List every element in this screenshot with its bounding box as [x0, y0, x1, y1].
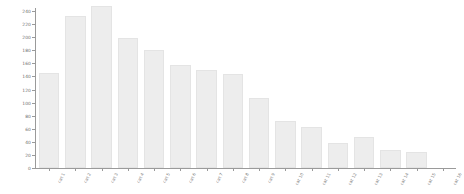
y-tick-label: 220 — [22, 22, 31, 27]
bar — [406, 152, 426, 168]
x-tick-label: cat 12 — [347, 172, 358, 186]
x-tick-mark — [259, 168, 260, 171]
bar — [65, 16, 85, 168]
x-tick-mark — [390, 168, 391, 171]
bar — [196, 70, 216, 168]
bar-chart: 020406080100120140160180200220240 cat 1c… — [0, 0, 464, 194]
y-tick-label: 240 — [22, 9, 31, 14]
bar — [39, 73, 59, 168]
x-tick-label: cat 5 — [162, 172, 171, 184]
x-axis-line — [35, 168, 456, 169]
x-tick-label: cat 16 — [452, 172, 463, 186]
x-tick-mark — [207, 168, 208, 171]
bar — [354, 137, 374, 168]
y-tick-label: 100 — [22, 100, 31, 105]
x-tick-label: cat 8 — [240, 172, 249, 184]
x-tick-label: cat 13 — [373, 172, 384, 186]
x-tick-mark — [128, 168, 129, 171]
x-tick-label: cat 11 — [321, 172, 332, 186]
x-tick-label: cat 1 — [57, 172, 66, 184]
bar — [328, 143, 348, 168]
y-tick-label: 140 — [22, 74, 31, 79]
x-tick-mark — [285, 168, 286, 171]
x-tick-mark — [312, 168, 313, 171]
x-tick-label: cat 4 — [135, 172, 144, 184]
bar — [170, 65, 190, 168]
x-tick-mark — [364, 168, 365, 171]
bar — [249, 98, 269, 168]
x-tick-label: cat 3 — [109, 172, 118, 184]
bar — [380, 150, 400, 168]
y-tick-label: 200 — [22, 35, 31, 40]
y-tick-label: 0 — [28, 166, 31, 171]
y-tick-label: 120 — [22, 87, 31, 92]
y-tick-label: 180 — [22, 48, 31, 53]
y-tick-label: 60 — [25, 126, 31, 131]
x-tick-label: cat 2 — [83, 172, 92, 184]
x-tick-mark — [75, 168, 76, 171]
bar — [223, 74, 243, 168]
x-tick-mark — [49, 168, 50, 171]
x-tick-label: cat 14 — [399, 172, 410, 186]
bar — [275, 121, 295, 168]
x-tick-mark — [102, 168, 103, 171]
x-tick-mark — [233, 168, 234, 171]
bar — [118, 38, 138, 168]
bar — [301, 127, 321, 168]
x-tick-mark — [180, 168, 181, 171]
x-tick-label: cat 10 — [294, 172, 305, 186]
y-tick-mark — [32, 168, 36, 169]
x-tick-mark — [417, 168, 418, 171]
x-tick-mark — [338, 168, 339, 171]
y-tick-label: 80 — [25, 113, 31, 118]
bar — [91, 6, 111, 168]
x-tick-label: cat 7 — [214, 172, 223, 184]
y-tick-label: 160 — [22, 61, 31, 66]
x-tick-label: cat 6 — [188, 172, 197, 184]
y-tick-label: 40 — [25, 139, 31, 144]
bar — [144, 50, 164, 168]
x-tick-label: cat 9 — [267, 172, 276, 184]
bars-layer — [36, 11, 456, 168]
x-tick-mark — [443, 168, 444, 171]
x-tick-label: cat 15 — [426, 172, 437, 186]
x-tick-mark — [154, 168, 155, 171]
y-tick-label: 20 — [25, 152, 31, 157]
